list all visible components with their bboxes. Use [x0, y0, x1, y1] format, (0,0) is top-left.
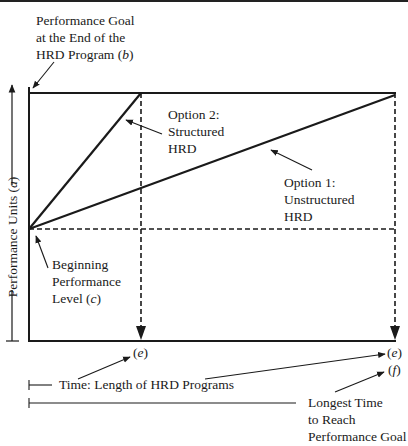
xaxis-label: Time: Length of HRD Programs [59, 376, 234, 393]
begin-arrow [36, 236, 48, 268]
option1-arrow [271, 150, 312, 170]
longest-label: Longest Time to Reach Performance Goal [308, 394, 407, 445]
goal-label: Performance Goal at the End of the HRD P… [36, 12, 135, 63]
option2-label: Option 2: Structured HRD [168, 106, 224, 157]
e-marker-2: (e) [387, 344, 402, 361]
f-marker: (f) [388, 361, 401, 378]
option2-arrow [126, 120, 162, 134]
begin-label: Beginning Performance Level (c) [52, 256, 121, 307]
arrowhead-down-e2 [390, 326, 400, 340]
arrowhead-down-e1 [136, 326, 146, 340]
goal-arrow [33, 62, 54, 88]
option1-label: Option 1: Unstructured HRD [284, 174, 354, 225]
yaxis-label: Performance Units (a) [4, 177, 21, 298]
longest-arrow [335, 372, 384, 392]
e-marker-1: (e) [133, 344, 148, 361]
